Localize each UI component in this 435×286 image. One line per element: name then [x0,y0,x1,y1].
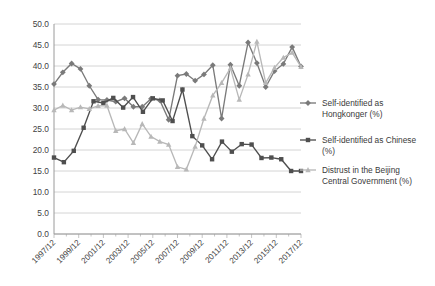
data-point [237,97,242,102]
data-point [306,138,310,142]
data-point [210,157,214,161]
data-point [160,98,164,102]
x-tick-label: 2015/12 [252,238,280,266]
data-point [175,73,181,79]
y-tick-label: 50.0 [33,19,50,29]
legend-label: Self-identified as Chinese [322,135,416,145]
data-point [151,96,155,100]
y-tick-label: 35.0 [33,82,50,92]
legend-item: Distrust in the BeijingCentral Governmen… [300,165,412,186]
legend-label: Central Government (%) [322,176,412,186]
data-point [131,95,135,99]
y-tick-label: 25.0 [33,124,50,134]
x-tick-label: 2001/12 [80,238,108,266]
data-point [220,139,224,143]
data-point [259,156,263,160]
data-point [305,100,311,106]
x-tick-label: 1999/12 [55,238,83,266]
legend-label: (%) [322,146,335,156]
data-point [254,60,260,66]
data-point [141,110,145,114]
data-point [62,160,66,164]
y-tick-label: 30.0 [33,103,50,113]
x-tick-label: 1997/12 [30,238,58,266]
data-point [200,143,204,147]
data-point [240,142,244,146]
data-point [201,116,206,121]
x-tick-label: 2003/12 [104,238,132,266]
x-tick-label: 2009/12 [178,238,206,266]
data-point [269,155,273,159]
x-tick-label: 2011/12 [203,238,230,265]
data-point [140,121,145,126]
y-tick-label: 40.0 [33,61,50,71]
chart-container: 0.05.010.015.020.025.030.035.040.045.050… [0,0,435,286]
x-tick-label: 2007/12 [154,238,182,266]
series-2 [52,87,303,173]
data-point [289,169,293,173]
line-chart: 0.05.010.015.020.025.030.035.040.045.050… [0,0,435,286]
y-tick-label: 45.0 [33,40,50,50]
data-point [78,104,83,109]
data-point [192,144,197,149]
data-point [121,105,125,109]
x-tick-label: 2013/12 [228,238,256,266]
legend-item: Self-identified as Chinese(%) [300,135,416,156]
gridlines [54,24,301,234]
series-layer [51,39,304,173]
x-axis-ticks [54,234,301,238]
legend-item: Self-identified asHongkonger (%) [300,98,383,119]
data-point [52,155,56,159]
y-tick-label: 20.0 [33,145,50,155]
y-axis-tick-labels: 0.05.010.015.020.025.030.035.040.045.050… [33,19,50,239]
data-point [245,72,250,77]
data-point [180,87,184,91]
data-point [111,96,115,100]
data-point [72,149,76,153]
data-point [101,101,105,105]
legend-label: Distrust in the Beijing [322,165,400,175]
data-point [254,39,259,44]
data-point [230,149,234,153]
x-tick-label: 2017/12 [277,238,305,266]
chart-legend: Self-identified asHongkonger (%)Self-ide… [300,98,416,186]
data-point [279,157,283,161]
data-point [81,126,85,130]
data-point [170,119,174,123]
x-axis-tick-labels: 1997/121999/122001/122003/122005/122007/… [30,238,305,266]
data-point [91,99,95,103]
legend-label: Hongkonger (%) [322,109,383,119]
data-point [245,40,251,46]
x-tick-label: 2005/12 [129,238,157,266]
data-point [190,134,194,138]
series-line [54,90,301,171]
y-tick-label: 10.0 [33,187,50,197]
y-tick-label: 15.0 [33,166,50,176]
legend-label: Self-identified as [322,98,383,108]
data-point [60,103,65,108]
data-point [219,116,225,122]
y-tick-label: 5.0 [37,208,49,218]
data-point [175,164,180,169]
y-tick-label: 0.0 [37,229,49,239]
data-point [249,142,253,146]
data-point [236,83,242,89]
